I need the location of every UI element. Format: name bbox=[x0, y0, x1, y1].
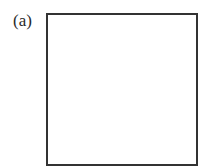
square-shape bbox=[46, 13, 198, 166]
panel-label: (a) bbox=[13, 12, 32, 29]
